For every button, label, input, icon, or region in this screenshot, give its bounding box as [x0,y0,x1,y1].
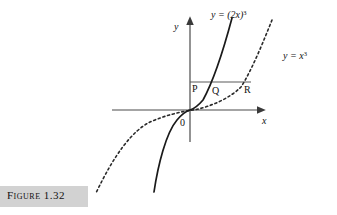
curve-label-solid-exponent: 3 [243,9,246,16]
curve-label-dashed-base: y = x [282,50,304,61]
curve-label-solid-base: y = (2x) [210,9,244,21]
curve-label-dashed-exponent: 3 [304,50,307,57]
curve-label-dashed: y = x3 [282,50,307,62]
curve-y-equals-x-cubed [96,20,272,193]
x-axis-label: x [261,115,267,126]
curve-y-equals-2x-cubed [154,18,232,192]
curve-label-solid: y = (2x)3 [210,9,247,22]
graph-canvas: x y 0 P Q R y = (2x)3 y = x3 [0,0,337,215]
point-label-r: R [244,84,251,95]
figure-container: x y 0 P Q R y = (2x)3 y = x3 Figure 1.32 [0,0,337,215]
origin-label: 0 [180,117,185,128]
figure-caption: Figure 1.32 [7,189,65,201]
y-axis-label: y [173,21,179,32]
point-label-q: Q [212,85,220,96]
point-label-p: P [192,83,198,94]
